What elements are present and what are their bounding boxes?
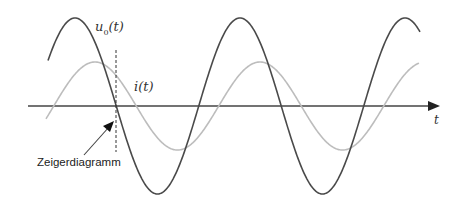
i-label: i(t) [134, 80, 154, 93]
marker-arrow-line [84, 127, 109, 155]
axis-arrow-icon [428, 101, 440, 111]
u0-label-arg: (t) [108, 19, 123, 34]
t-axis-label: t [434, 114, 439, 126]
i-label-arg: (t) [138, 79, 153, 94]
marker-arrow-icon [103, 121, 114, 132]
zeigerdiagramm-caption: Zeigerdiagramm [37, 157, 121, 169]
u0-label: u0(t) [95, 20, 124, 37]
signal-diagram [0, 0, 463, 211]
